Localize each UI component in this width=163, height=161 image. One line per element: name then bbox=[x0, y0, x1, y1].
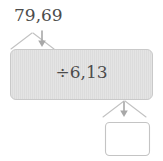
input-value-label: 79,69 bbox=[14, 5, 63, 25]
input-funnel-left-line bbox=[11, 33, 32, 49]
output-arrow-head bbox=[120, 111, 128, 118]
input-arrow-head bbox=[38, 41, 46, 48]
output-answer-box[interactable] bbox=[106, 123, 150, 156]
output-funnel-right-line bbox=[125, 101, 146, 117]
output-funnel-left-line bbox=[103, 101, 124, 117]
operation-label: ÷6,13 bbox=[0, 62, 163, 82]
function-machine-diagram: 79,69 ÷6,13 bbox=[0, 0, 163, 161]
